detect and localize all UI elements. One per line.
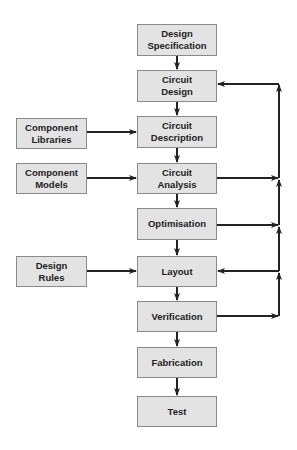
component-libraries-box: Component Libraries <box>16 118 87 149</box>
design-rules-box: Design Rules <box>16 256 87 287</box>
verification-box: Verification <box>137 301 217 332</box>
test-box: Test <box>137 396 217 427</box>
fabrication-box: Fabrication <box>137 347 217 378</box>
circuit-analysis-box: Circuit Analysis <box>137 163 217 194</box>
optimisation-box: Optimisation <box>137 208 217 240</box>
circuit-description-box: Circuit Description <box>137 116 217 148</box>
component-models-box: Component Models <box>16 163 87 194</box>
layout-box: Layout <box>137 256 217 287</box>
design-specification-box: Design Specification <box>137 24 217 56</box>
circuit-design-box: Circuit Design <box>137 70 217 102</box>
